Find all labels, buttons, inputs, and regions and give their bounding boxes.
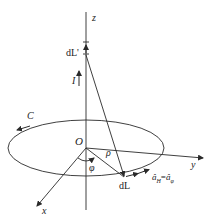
loop-label: C [27, 111, 34, 121]
y-axis [86, 148, 203, 158]
y-axis-label: y [191, 160, 195, 170]
unit-vector-label: âH=âφ [152, 173, 174, 184]
z-axis-label: z [92, 13, 96, 23]
x-axis-label: x [42, 206, 46, 216]
radius-label: ρ [106, 148, 111, 158]
current-label: I [72, 76, 75, 86]
dl-label: dL [119, 181, 130, 191]
dl-prime-label: dL' [66, 48, 79, 58]
angle-label: φ [89, 163, 95, 173]
origin-label: O [75, 136, 83, 147]
x-axis [37, 148, 86, 206]
distance-line [86, 55, 124, 176]
dl-arrow [126, 174, 138, 177]
unit-vector-rhs-sub: φ [170, 178, 173, 184]
unit-vector-arrow [138, 170, 149, 174]
